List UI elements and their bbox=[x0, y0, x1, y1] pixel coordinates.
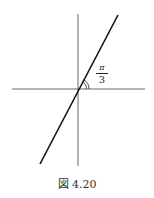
angle-label: π 3 bbox=[96, 64, 108, 85]
figure-caption: 図 4.20 bbox=[0, 175, 154, 191]
inclined-line bbox=[40, 15, 118, 164]
angle-denominator: 3 bbox=[96, 75, 108, 85]
figure-canvas bbox=[0, 0, 154, 198]
angle-numerator: π bbox=[96, 64, 108, 72]
